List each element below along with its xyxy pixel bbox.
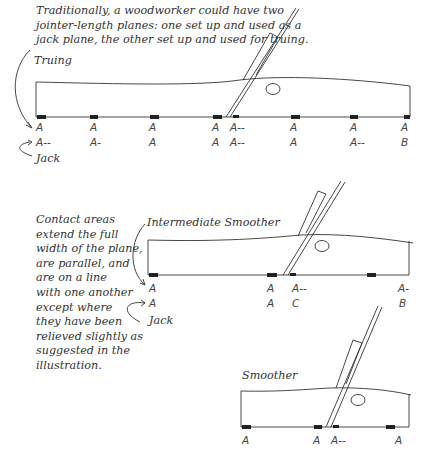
note-line: extend the full xyxy=(36,228,143,243)
contact-label: A xyxy=(149,136,156,148)
contact-label: A xyxy=(149,121,156,133)
note-line: width of the plane, xyxy=(36,242,143,257)
note-line: except where xyxy=(36,301,143,316)
contact-label: A xyxy=(90,121,97,133)
note-line: are on a line xyxy=(36,271,143,286)
note-line: illustration. xyxy=(36,359,143,374)
note-line: they have been xyxy=(36,315,143,330)
contact-label: A xyxy=(267,297,274,309)
contact-label: A xyxy=(149,297,156,309)
contact-label: A xyxy=(313,434,320,446)
contact-label: A-- xyxy=(230,136,245,148)
contact-label: A-- xyxy=(292,282,307,294)
contact-label: A xyxy=(350,121,357,133)
contact-label: A xyxy=(242,434,249,446)
contact-label: A-- xyxy=(36,136,51,148)
note-line: with one another xyxy=(36,286,143,301)
contact-label: A xyxy=(36,121,43,133)
contact-label: A- xyxy=(90,136,101,148)
contact-label: A-- xyxy=(331,434,346,446)
contact-label: A xyxy=(149,282,156,294)
contact-label: B xyxy=(401,136,408,148)
contact-label: A-- xyxy=(350,136,365,148)
contact-label: A xyxy=(212,136,219,148)
contact-label: A xyxy=(290,136,297,148)
contact-label: A xyxy=(212,121,219,133)
smoother-plane-drawing xyxy=(241,306,411,429)
jack-label: Jack xyxy=(36,152,60,167)
contact-label: C xyxy=(292,297,299,309)
smoother-label: Smoother xyxy=(242,369,297,384)
note-line: are parallel, and xyxy=(36,257,143,272)
contact-label: A- xyxy=(398,282,409,294)
jointer-plane-drawing xyxy=(15,8,410,156)
contact-label: B xyxy=(399,297,406,309)
contact-label: A xyxy=(401,121,408,133)
contact-label: A xyxy=(267,282,274,294)
intermediate-smoother-label: Intermediate Smoother xyxy=(147,216,280,231)
side-note: Contact areas extend the full width of t… xyxy=(36,213,143,374)
jack-label-2: Jack xyxy=(149,314,173,329)
note-line: relieved slightly as xyxy=(36,330,143,345)
note-line: suggested in the xyxy=(36,344,143,359)
note-line: Contact areas xyxy=(36,213,143,228)
truing-label: Truing xyxy=(34,54,72,69)
contact-label: A-- xyxy=(230,121,245,133)
contact-label: A xyxy=(395,434,402,446)
contact-label: A xyxy=(290,121,297,133)
